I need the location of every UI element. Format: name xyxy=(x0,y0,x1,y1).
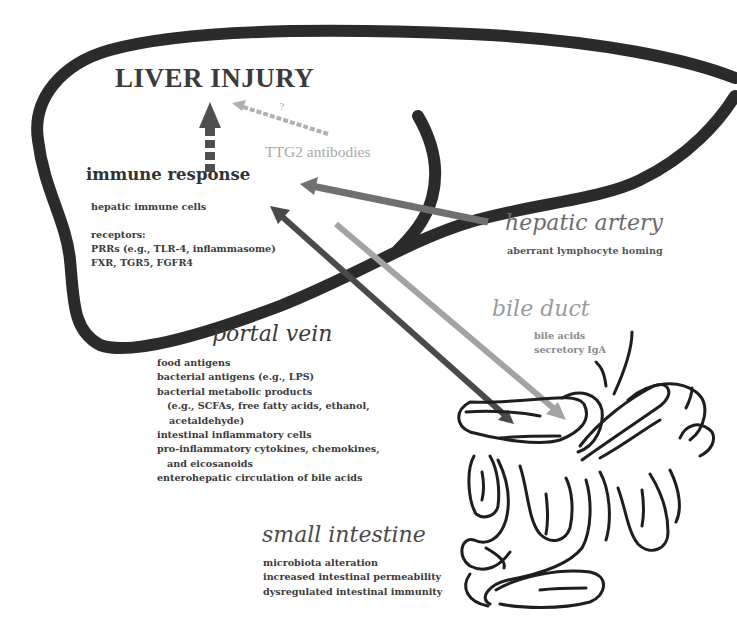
small-intestine-title: small intestine xyxy=(262,522,426,547)
small-intestine-items: microbiota alteration increased intestin… xyxy=(263,556,442,599)
bile-duct-item-secretory-iga: secretory IgA xyxy=(534,343,606,357)
hepatic-artery-arrow xyxy=(300,177,488,222)
small-intestine-item: dysregulated intestinal immunity xyxy=(263,585,442,599)
receptors-label: receptors: xyxy=(91,228,146,242)
ttg2-antibodies-label: TTG2 antibodies xyxy=(265,143,370,161)
receptor-prrs: PRRs (e.g., TLR-4, inflammasome) xyxy=(91,242,276,256)
hepatic-immune-cells: hepatic immune cells xyxy=(91,200,206,214)
liver-injury-title: LIVER INJURY xyxy=(115,63,314,94)
portal-vein-item: bacterial metabolic products xyxy=(157,385,380,399)
immune-response-title: immune response xyxy=(86,165,250,184)
small-intestine-drawing xyxy=(459,332,714,608)
small-intestine-item: increased intestinal permeability xyxy=(263,570,442,584)
receptor-fxr: FXR, TGR5, FGFR4 xyxy=(91,256,193,270)
portal-vein-item: pro-inflammatory cytokines, chemokines, xyxy=(157,442,380,456)
portal-vein-title: portal vein xyxy=(212,321,332,346)
bile-duct-item-bile-acids: bile acids xyxy=(534,329,585,343)
portal-vein-item: bacterial antigens (e.g., LPS) xyxy=(157,370,380,384)
portal-vein-item: intestinal inflammatory cells xyxy=(157,428,380,442)
portal-vein-item: food antigens xyxy=(157,356,380,370)
hepatic-artery-item: aberrant lymphocyte homing xyxy=(507,244,663,258)
portal-vein-item: acetaldehyde) xyxy=(157,414,380,428)
portal-vein-item: and eicosanoids xyxy=(157,457,380,471)
hepatic-artery-title: hepatic artery xyxy=(505,210,663,235)
bile-duct-title: bile duct xyxy=(492,296,590,321)
immune-to-injury-arrow xyxy=(199,102,221,172)
portal-vein-item: enterohepatic circulation of bile acids xyxy=(157,471,380,485)
unknown-link-marker: ? xyxy=(279,101,284,112)
small-intestine-item: microbiota alteration xyxy=(263,556,442,570)
portal-vein-items: food antigens bacterial antigens (e.g., … xyxy=(157,356,380,486)
portal-vein-item: (e.g., SCFAs, free fatty acids, ethanol, xyxy=(157,399,380,413)
